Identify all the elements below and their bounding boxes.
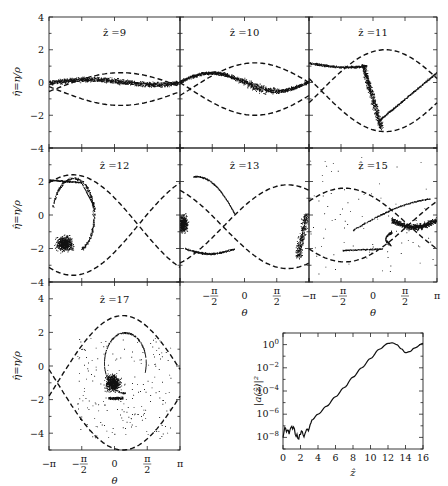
x-tick-label: 0 bbox=[280, 452, 286, 463]
y-tick-label: 10−6 bbox=[257, 407, 280, 419]
particle-cloud bbox=[77, 332, 171, 439]
phase-space-panel: ẑ =10 bbox=[180, 17, 310, 148]
x-tick-label: π bbox=[402, 285, 408, 296]
x-tick-label: 10 bbox=[364, 452, 376, 463]
y-tick-label: 10−8 bbox=[257, 430, 279, 442]
phase-space-panel: ẑ =11 bbox=[309, 17, 437, 148]
x-tick-label: 8 bbox=[350, 452, 356, 463]
svg-text:2: 2 bbox=[211, 296, 217, 307]
separatrix-up bbox=[180, 63, 309, 89]
svg-text:−: − bbox=[202, 290, 210, 301]
svg-text:2: 2 bbox=[81, 464, 87, 475]
x-axis-label: θ bbox=[370, 307, 376, 318]
phase-space-panel: ẑ =1220−2−4 bbox=[30, 148, 180, 288]
y-tick-label: 4 bbox=[38, 293, 44, 304]
svg-text:−: − bbox=[331, 290, 339, 301]
panel-title: ẑ =12 bbox=[100, 160, 130, 171]
panel-title: ẑ =11 bbox=[358, 27, 388, 38]
svg-text:2: 2 bbox=[144, 464, 150, 475]
growth-curve-inset: 024681012141610010−210−410−610−8ẑ|a(ẑ)|² bbox=[252, 333, 429, 478]
svg-text:−: − bbox=[72, 458, 80, 469]
particle-cloud bbox=[49, 77, 181, 88]
y-tick-label: −4 bbox=[30, 143, 44, 154]
y-axis-label: η̂=η/ρ bbox=[11, 67, 22, 97]
x-tick-label: 0 bbox=[241, 290, 247, 301]
x-tick-label: π bbox=[144, 453, 150, 464]
x-tick-label: 0 bbox=[370, 290, 376, 301]
panel-title: ẑ =15 bbox=[358, 160, 388, 171]
x-tick-label: 0 bbox=[111, 458, 117, 469]
y-tick-label: 2 bbox=[38, 327, 44, 338]
x-tick-label: −π bbox=[302, 290, 316, 301]
y-tick-label: 0 bbox=[38, 210, 44, 221]
x-axis-label: θ bbox=[241, 307, 247, 318]
particle-cloud bbox=[49, 177, 96, 254]
y-tick-label: 2 bbox=[38, 176, 44, 187]
y-tick-label: 10−2 bbox=[257, 361, 279, 373]
particle-cloud bbox=[309, 62, 437, 131]
y-axis-label: η̂=η/ρ bbox=[11, 351, 22, 381]
inset-frame bbox=[283, 333, 423, 449]
y-tick-label: 0 bbox=[38, 361, 44, 372]
separatrix-dn bbox=[49, 89, 180, 105]
x-tick-label: π bbox=[177, 458, 183, 469]
separatrix-up bbox=[180, 185, 309, 226]
y-tick-label: 0 bbox=[38, 77, 44, 88]
y-axis-label: η̂=η/ρ bbox=[11, 200, 22, 230]
x-tick-label: 4 bbox=[315, 452, 321, 463]
y-axis-label: |a(ẑ)|² bbox=[252, 376, 264, 406]
y-tick-label: −2 bbox=[30, 110, 44, 121]
x-tick-label: π bbox=[274, 285, 280, 296]
x-axis-label: ẑ bbox=[349, 467, 356, 478]
x-tick-label: π bbox=[211, 285, 217, 296]
y-tick-label: −4 bbox=[30, 277, 44, 288]
y-tick-label: −2 bbox=[30, 394, 44, 405]
y-tick-label: 100 bbox=[262, 338, 279, 350]
growth-curve bbox=[283, 343, 423, 439]
separatrix-up bbox=[49, 316, 180, 383]
x-tick-label: π bbox=[434, 290, 440, 301]
phase-space-panel: ẑ =13π2−0π2θ bbox=[180, 148, 309, 318]
y-tick-label: −2 bbox=[30, 243, 44, 254]
separatrix-dn bbox=[49, 383, 180, 450]
particle-cloud bbox=[180, 71, 310, 95]
x-tick-label: 2 bbox=[297, 452, 303, 463]
svg-text:2: 2 bbox=[402, 296, 408, 307]
x-tick-label: π bbox=[81, 453, 87, 464]
y-tick-label: 4 bbox=[38, 12, 44, 23]
y-tick-label: 2 bbox=[38, 44, 44, 55]
panel-title: ẑ =13 bbox=[230, 160, 260, 171]
y-tick-label: −4 bbox=[30, 428, 44, 439]
x-axis-label: θ bbox=[111, 475, 117, 486]
panel-title: ẑ =10 bbox=[230, 27, 260, 38]
separatrix-dn bbox=[180, 89, 309, 115]
phase-space-panel: ẑ =15−ππ2−0π2πθ bbox=[302, 148, 440, 318]
panel-title: ẑ =17 bbox=[100, 294, 130, 305]
x-tick-label: 14 bbox=[399, 452, 411, 463]
particle-cloud bbox=[180, 176, 309, 260]
separatrix-dn bbox=[180, 227, 309, 268]
svg-text:2: 2 bbox=[340, 296, 346, 307]
x-tick-label: 12 bbox=[382, 452, 394, 463]
particle-cloud bbox=[310, 157, 437, 275]
phase-space-panel: ẑ =9420−2−4 bbox=[30, 12, 181, 154]
phase-space-panel: ẑ =17420−2−4−ππ2−0π2πθ bbox=[30, 282, 183, 486]
figure-canvas: ẑ =9420−2−4ẑ =10ẑ =11ẑ =1220−2−4ẑ =13π2−… bbox=[0, 0, 448, 486]
x-tick-label: 6 bbox=[332, 452, 338, 463]
svg-text:2: 2 bbox=[274, 296, 280, 307]
x-tick-label: −π bbox=[42, 458, 56, 469]
panel-title: ẑ =9 bbox=[103, 27, 126, 38]
x-tick-label: 16 bbox=[417, 452, 429, 463]
x-tick-label: π bbox=[340, 285, 346, 296]
separatrix-up bbox=[309, 50, 437, 90]
